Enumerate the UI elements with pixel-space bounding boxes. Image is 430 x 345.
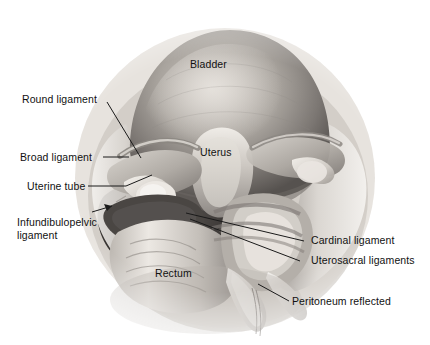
- label-round-ligament: Round ligament: [22, 93, 97, 106]
- label-cardinal-ligament: Cardinal ligament: [311, 234, 394, 247]
- label-uterus: Uterus: [200, 146, 232, 159]
- illustration-figure: Round ligament Broad ligament Uterine tu…: [0, 0, 430, 345]
- label-bladder: Bladder: [190, 58, 227, 71]
- label-broad-ligament: Broad ligament: [20, 151, 92, 164]
- label-peritoneum-reflected: Peritoneum reflected: [292, 295, 391, 308]
- label-infundibulopelvic-ligament: Infundibulopelvic ligament: [17, 216, 97, 241]
- label-uterosacral-ligaments: Uterosacral ligaments: [311, 254, 415, 267]
- anatomy-illustration-image: [0, 0, 430, 345]
- label-rectum: Rectum: [155, 267, 192, 280]
- label-uterine-tube: Uterine tube: [27, 180, 85, 193]
